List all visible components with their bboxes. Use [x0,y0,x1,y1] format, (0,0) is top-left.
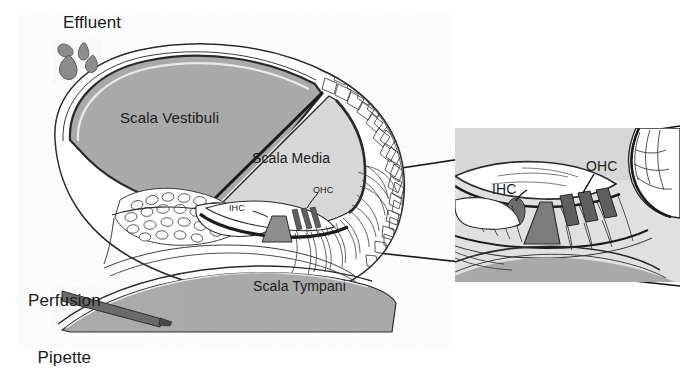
label-perfusion-pipette-line2: Pipette [28,348,101,367]
label-scala-media: Scala Media [252,151,330,167]
droplet-3 [59,55,77,80]
label-effluent: Effluent [63,13,121,32]
label-scala-tympani: Scala Tympani [253,279,346,295]
label-ihc-main: IHC [229,203,245,213]
droplet-1 [58,44,73,57]
label-ohc-main: OHC [313,185,333,195]
label-perfusion-pipette: Perfusion Pipette [28,253,101,370]
label-scala-vestibuli: Scala Vestibuli [120,110,219,127]
label-ohc-inset: OHC [586,159,617,175]
label-ihc-inset: IHC [492,182,516,198]
cochlea-cross-section [55,44,416,332]
droplet-2 [78,43,89,60]
label-perfusion-pipette-line1: Perfusion [28,291,101,310]
